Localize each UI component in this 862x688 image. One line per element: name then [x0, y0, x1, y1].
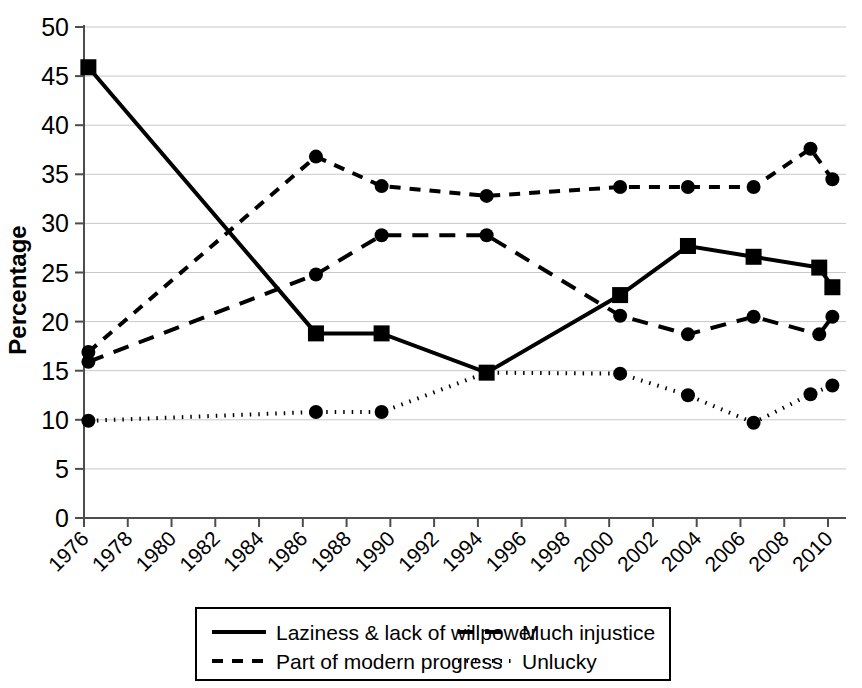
- line-chart: 05101520253035404550 1976197819801982198…: [0, 0, 862, 688]
- y-tick-label: 50: [41, 13, 69, 41]
- data-point-marker: [825, 172, 839, 186]
- series-line: [88, 67, 819, 372]
- y-tick-label: 20: [41, 308, 69, 336]
- data-point-marker: [309, 405, 323, 419]
- x-tick-label: 2010: [788, 527, 837, 576]
- data-point-marker: [680, 238, 696, 254]
- data-point-marker: [825, 378, 839, 392]
- x-tick-label: 2002: [612, 527, 661, 576]
- data-point-marker: [681, 388, 695, 402]
- y-tick-label: 40: [41, 111, 69, 139]
- legend-label: Part of modern progress: [276, 650, 502, 673]
- data-point-marker: [375, 405, 389, 419]
- data-point-marker: [80, 59, 96, 75]
- data-point-marker: [803, 387, 817, 401]
- data-point-marker: [375, 179, 389, 193]
- data-point-marker: [613, 367, 627, 381]
- y-tick-label: 35: [41, 160, 69, 188]
- gridlines: [84, 27, 846, 469]
- legend-label: Much injustice: [522, 621, 655, 644]
- data-point-marker: [613, 309, 627, 323]
- y-axis-ticks: 05101520253035404550: [41, 13, 84, 532]
- x-tick-label: 1986: [262, 527, 311, 576]
- y-tick-label: 45: [41, 62, 69, 90]
- y-tick-label: 0: [55, 504, 69, 532]
- x-axis-ticks: 1976197819801982198419861988199019921994…: [44, 518, 837, 576]
- y-tick-label: 10: [41, 406, 69, 434]
- data-point-marker: [309, 267, 323, 281]
- data-point-marker: [747, 180, 761, 194]
- data-point-marker: [480, 228, 494, 242]
- x-tick-label: 1996: [481, 527, 530, 576]
- y-tick-label: 15: [41, 357, 69, 385]
- data-point-marker: [681, 327, 695, 341]
- data-point-marker: [81, 345, 95, 359]
- x-tick-label: 2008: [744, 527, 793, 576]
- x-tick-label: 1980: [131, 527, 180, 576]
- x-tick-label: 1978: [87, 527, 136, 576]
- x-tick-label: 1990: [350, 527, 399, 576]
- x-tick-label: 1982: [175, 527, 224, 576]
- data-point-marker: [308, 325, 324, 341]
- x-tick-label: 1988: [306, 527, 355, 576]
- data-point-marker: [81, 414, 95, 428]
- y-axis-label: Percentage: [4, 225, 31, 354]
- x-tick-label: 1998: [525, 527, 574, 576]
- x-tick-label: 1992: [394, 527, 443, 576]
- data-point-marker: [374, 325, 390, 341]
- x-tick-label: 1994: [437, 526, 487, 576]
- x-tick-label: 2004: [656, 526, 706, 576]
- data-point-marker: [803, 142, 817, 156]
- data-point-marker: [681, 180, 695, 194]
- x-tick-label: 2006: [700, 527, 749, 576]
- data-point-marker: [613, 180, 627, 194]
- x-tick-label: 2000: [569, 527, 618, 576]
- data-point-marker: [747, 310, 761, 324]
- data-series: [80, 59, 840, 429]
- chart-legend: Laziness & lack of willpowerMuch injusti…: [196, 608, 670, 680]
- data-point-marker: [747, 416, 761, 430]
- series-line: [88, 373, 832, 423]
- data-point-marker: [612, 287, 628, 303]
- data-point-marker: [309, 150, 323, 164]
- chart-figure: 05101520253035404550 1976197819801982198…: [0, 0, 862, 688]
- x-tick-label: 1976: [44, 527, 93, 576]
- y-tick-label: 30: [41, 209, 69, 237]
- data-point-marker: [375, 228, 389, 242]
- axes: [84, 25, 846, 518]
- data-point-marker: [480, 189, 494, 203]
- x-tick-label: 1984: [219, 526, 269, 576]
- series-line: [88, 235, 819, 362]
- data-point-marker: [480, 366, 494, 380]
- data-point-marker: [746, 249, 762, 265]
- y-tick-label: 5: [55, 455, 69, 483]
- y-axis-title: Percentage: [4, 225, 31, 354]
- legend-label: Unlucky: [522, 650, 597, 673]
- y-tick-label: 25: [41, 259, 69, 287]
